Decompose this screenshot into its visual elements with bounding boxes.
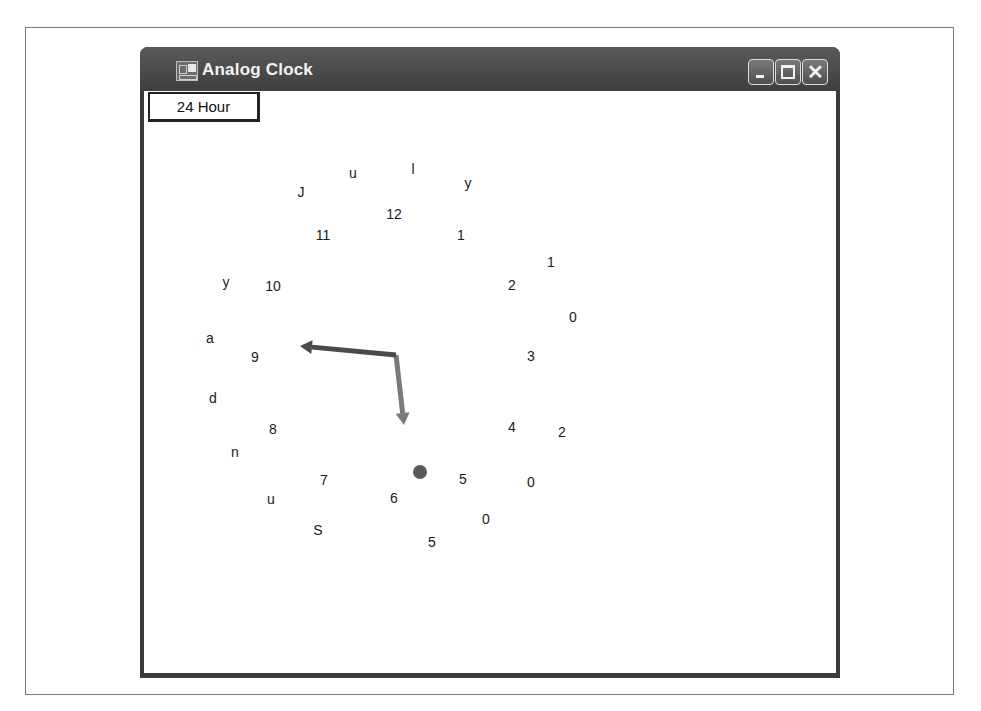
second-hand-dot bbox=[413, 465, 427, 479]
clock-hands bbox=[144, 91, 836, 673]
window-title: Analog Clock bbox=[176, 60, 313, 80]
maximize-button[interactable] bbox=[775, 59, 801, 85]
close-button[interactable]: ✕ bbox=[802, 59, 828, 85]
minute-hand bbox=[300, 340, 396, 355]
minimize-icon bbox=[756, 75, 764, 78]
client-area: 24 Hour 121234567891011July102005Sunday bbox=[144, 91, 836, 673]
title-bar[interactable]: Analog Clock ✕ bbox=[140, 47, 840, 91]
close-icon: ✕ bbox=[803, 60, 827, 84]
analog-clock-window: Analog Clock ✕ 24 Hour 121234567891011Ju… bbox=[140, 47, 840, 678]
clock-face: 121234567891011July102005Sunday bbox=[144, 91, 836, 673]
hour-hand bbox=[396, 355, 410, 425]
minimize-button[interactable] bbox=[748, 59, 774, 85]
maximize-icon bbox=[781, 65, 795, 79]
